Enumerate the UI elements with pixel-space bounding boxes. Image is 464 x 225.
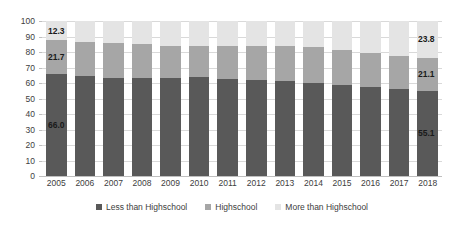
bar-stack — [275, 21, 296, 176]
stacked-bar-chart: 0102030405060708090100 12.321.766.023.82… — [0, 0, 464, 225]
bar-stack — [303, 21, 324, 176]
bar-segment[interactable] — [332, 50, 353, 84]
bar-column[interactable] — [246, 21, 267, 176]
bar-segment[interactable] — [189, 77, 210, 176]
gridline — [42, 161, 442, 162]
x-tick-label: 2011 — [213, 179, 242, 188]
bar-segment[interactable] — [189, 46, 210, 78]
bar-segment[interactable] — [103, 43, 124, 78]
bar-segment[interactable] — [332, 21, 353, 50]
gridline — [42, 130, 442, 131]
bar-column[interactable] — [332, 21, 353, 176]
bar-segment[interactable] — [275, 21, 296, 46]
gridline — [42, 83, 442, 84]
y-tick-label: 50 — [26, 95, 35, 104]
bar-segment[interactable] — [360, 53, 381, 87]
y-tick-label: 20 — [26, 141, 35, 150]
bar-stack — [389, 21, 410, 176]
y-tick-label: 10 — [26, 157, 35, 166]
bar-segment[interactable] — [303, 47, 324, 83]
bar-column[interactable] — [303, 21, 324, 176]
bar-segment[interactable] — [332, 85, 353, 176]
legend-label: Less than Highschool — [106, 203, 187, 212]
bar-column[interactable] — [103, 21, 124, 176]
x-tick-label: 2017 — [385, 179, 414, 188]
bar-column[interactable] — [160, 21, 181, 176]
bar-segment[interactable] — [217, 21, 238, 46]
bar-column[interactable] — [417, 21, 438, 176]
legend-label: Highschool — [215, 203, 257, 212]
chart-legend: Less than HighschoolHighschoolMore than … — [0, 203, 464, 212]
bar-column[interactable] — [189, 21, 210, 176]
x-tick-label: 2009 — [156, 179, 185, 188]
bar-column[interactable] — [275, 21, 296, 176]
x-tick-label: 2006 — [71, 179, 100, 188]
bar-segment[interactable] — [160, 78, 181, 176]
bar-segment[interactable] — [275, 46, 296, 81]
y-tick-label: 100 — [21, 17, 35, 26]
bar-segment[interactable] — [103, 78, 124, 176]
bar-stack — [417, 21, 438, 176]
bar-segment[interactable] — [132, 21, 153, 44]
bar-segment[interactable] — [75, 76, 96, 176]
x-tick-label: 2010 — [185, 179, 214, 188]
y-tick-label: 80 — [26, 48, 35, 57]
bar-segment[interactable] — [303, 21, 324, 47]
bar-segment[interactable] — [389, 89, 410, 176]
legend-item[interactable]: Highschool — [205, 203, 257, 212]
bar-segment[interactable] — [389, 21, 410, 56]
bar-column[interactable] — [75, 21, 96, 176]
bar-stack — [246, 21, 267, 176]
bar-segment[interactable] — [103, 21, 124, 43]
gridline — [42, 21, 442, 22]
gridline — [42, 145, 442, 146]
gridline — [42, 99, 442, 100]
x-tick-label: 2007 — [99, 179, 128, 188]
data-label: 21.7 — [48, 53, 65, 62]
legend-item[interactable]: Less than Highschool — [96, 203, 187, 212]
bar-stack — [103, 21, 124, 176]
gridline — [42, 37, 442, 38]
bar-segment[interactable] — [389, 56, 410, 89]
bar-column[interactable] — [217, 21, 238, 176]
bar-segment[interactable] — [275, 81, 296, 176]
bar-segment[interactable] — [360, 87, 381, 176]
y-tick-label: 30 — [26, 126, 35, 135]
bar-column[interactable] — [389, 21, 410, 176]
bar-segment[interactable] — [160, 46, 181, 79]
data-label: 66.0 — [48, 121, 65, 130]
bar-segment[interactable] — [246, 21, 267, 45]
bar-segment[interactable] — [132, 44, 153, 78]
bar-segment[interactable] — [217, 79, 238, 176]
bar-stack — [360, 21, 381, 176]
y-tick-label: 0 — [30, 172, 35, 181]
x-axis: 2005200620072008200920102011201220132014… — [42, 179, 442, 193]
bar-segment[interactable] — [217, 46, 238, 79]
x-tick-label: 2016 — [356, 179, 385, 188]
bar-segment[interactable] — [75, 21, 96, 42]
data-label: 21.1 — [418, 70, 435, 79]
bar-segment[interactable] — [160, 21, 181, 45]
x-axis-line — [42, 176, 442, 177]
bar-stack — [46, 21, 67, 176]
bar-segment[interactable] — [246, 80, 267, 176]
bar-segment[interactable] — [75, 42, 96, 76]
bar-stack — [160, 21, 181, 176]
legend-swatch-icon — [205, 204, 211, 210]
y-tick-label: 60 — [26, 79, 35, 88]
bar-segment[interactable] — [360, 21, 381, 53]
bar-segment[interactable] — [189, 21, 210, 45]
bar-segment[interactable] — [303, 83, 324, 176]
y-tick-label: 40 — [26, 110, 35, 119]
bar-segment[interactable] — [132, 78, 153, 176]
bar-stack — [75, 21, 96, 176]
x-tick-label: 2018 — [413, 179, 442, 188]
bar-column[interactable] — [360, 21, 381, 176]
y-tick-label: 70 — [26, 64, 35, 73]
bar-column[interactable] — [132, 21, 153, 176]
data-label: 23.8 — [418, 35, 435, 44]
bar-column[interactable] — [46, 21, 67, 176]
bar-stack — [217, 21, 238, 176]
bar-segment[interactable] — [246, 46, 267, 81]
legend-item[interactable]: More than Highschool — [275, 203, 368, 212]
